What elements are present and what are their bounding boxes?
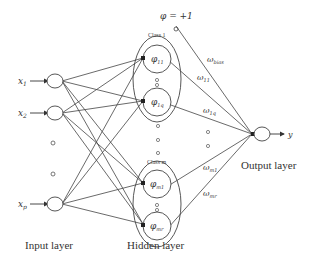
ellipsis-dot [156, 124, 159, 127]
bias-node: φ = +1 [160, 11, 193, 31]
svg-text:xp: xp [18, 199, 27, 211]
input-layer: x1 x2 xp [18, 74, 63, 211]
class-m-group: Class m φm1 φmr [133, 159, 181, 247]
svg-text:y: y [287, 130, 293, 139]
input-node-xp: xp [18, 197, 63, 211]
ellipsis-dot [206, 144, 209, 147]
ellipsis-dot [156, 138, 159, 141]
output-node: y [251, 127, 293, 141]
ellipsis-dot [156, 151, 159, 154]
output-layer-label: Output layer [241, 159, 297, 171]
input-layer-label: Input layer [25, 239, 73, 251]
svg-text:Class 1: Class 1 [148, 32, 166, 38]
hidden-layer-label: Hidden layer [127, 239, 184, 251]
rbf-network-diagram: x1 x2 xp Class 1 φ11 φ1q [0, 0, 310, 270]
svg-text:ω11: ω11 [197, 73, 210, 83]
svg-text:ωbias: ωbias [207, 55, 224, 65]
ellipsis-dot [206, 130, 209, 133]
svg-text:ωm1: ωm1 [203, 163, 217, 173]
svg-text:ω1q: ω1q [203, 106, 216, 117]
svg-text:ωmr: ωmr [203, 189, 217, 199]
weight-labels: ωbias ω11 ω1q ωm1 ωmr [197, 55, 224, 199]
input-node-x2: x2 [18, 106, 63, 120]
svg-text:Class m: Class m [147, 159, 167, 165]
svg-text:φ = +1: φ = +1 [160, 11, 193, 21]
ellipsis-dot [51, 172, 55, 176]
svg-text:x2: x2 [18, 108, 27, 119]
hidden-layer: Class 1 φ11 φ1q Class m φm1 φmr [133, 32, 210, 247]
input-to-hidden-connections [62, 58, 143, 224]
input-node-x1: x1 [18, 74, 63, 88]
class-1-group: Class 1 φ11 φ1q [133, 32, 181, 122]
ellipsis-dot [51, 141, 55, 145]
svg-text:x1: x1 [18, 76, 27, 87]
